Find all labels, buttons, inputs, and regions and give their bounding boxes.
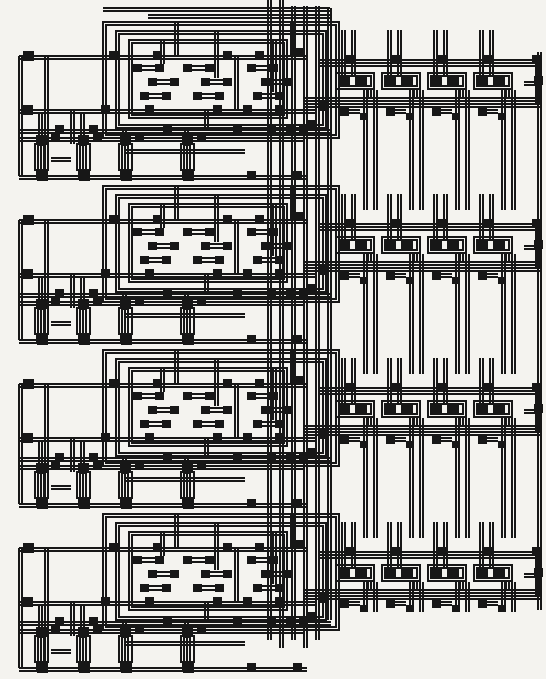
contact-pad [223,78,232,86]
contact-pad [243,105,252,114]
contact-pad [183,170,194,181]
contact-pad [223,51,232,60]
contact-pad [534,568,543,577]
contact-pad [243,269,252,278]
contact-pad [101,433,110,442]
contact-pad [215,256,224,264]
contact-pad [493,403,505,415]
contact-pad [155,392,164,400]
standard-cell [474,194,515,374]
contact-pad [135,462,144,470]
contact-pad [153,543,162,552]
contact-pad [201,570,210,578]
contact-pad [340,272,349,280]
contact-pad [386,272,395,280]
contact-pad [293,499,302,508]
contact-pad [205,556,214,564]
contact-pad [243,597,252,606]
contact-pad [36,463,47,472]
contact-pad [386,600,395,608]
contact-pad [163,617,172,626]
contact-pad [140,420,149,428]
contact-pad [275,256,284,264]
contact-pad [247,171,256,180]
contact-pad [213,105,222,114]
contact-pad [215,92,224,100]
contact-pad [135,298,144,306]
contact-pad [261,242,270,250]
contact-pad [37,170,48,181]
contact-pad [140,584,149,592]
contact-pad [478,108,487,116]
contact-pad [355,403,367,415]
contact-pad [253,92,262,100]
contact-pad [183,392,192,400]
contact-pad [55,453,64,462]
contact-pad [432,600,441,608]
contact-pad [101,105,110,114]
standard-cell [336,194,377,374]
contact-pad [205,64,214,72]
contact-pad [269,392,278,400]
contact-pad [155,556,164,564]
contact-pad [170,570,179,578]
contact-pad [432,436,441,444]
contact-pad [89,617,98,626]
contact-pad [109,51,118,60]
contact-pad [201,406,210,414]
logic-block-2 [19,186,339,345]
contact-pad [534,76,543,85]
contact-pad [89,125,98,134]
contact-pad [247,228,256,236]
contact-pad [79,334,90,345]
contact-pad [51,134,60,142]
contact-pad [223,242,232,250]
cell-row-2 [304,194,543,374]
contact-pad [247,556,256,564]
contact-pad [78,135,89,144]
contact-pad [340,108,349,116]
contact-pad [23,51,34,61]
contact-pad [493,75,505,87]
contact-pad [162,584,171,592]
contact-pad [275,420,284,428]
contact-pad [182,135,193,144]
logic-block-3 [19,350,339,509]
contact-pad [247,663,256,672]
contact-pad [338,403,350,415]
contact-pad [109,379,118,388]
contact-pad [135,626,144,634]
contact-pad [283,406,292,414]
contact-pad [23,433,33,443]
contact-pad [153,51,162,60]
contact-pad [243,433,252,442]
contact-pad [476,239,488,251]
contact-pad [255,379,264,388]
contact-pad [283,78,292,86]
contact-pad [215,584,224,592]
contact-pad [23,215,34,225]
contact-pad [299,617,308,626]
contact-pad [37,334,48,345]
contact-pad [93,626,102,634]
contact-pad [23,269,33,279]
contact-pad [247,392,256,400]
contact-pad [162,256,171,264]
standard-cell [428,358,469,538]
contact-pad [267,289,276,298]
contact-pad [78,299,89,308]
contact-pad [120,299,131,308]
contact-pad [109,543,118,552]
contact-pad [23,543,34,553]
contact-pad [145,433,154,442]
contact-pad [148,570,157,578]
contact-pad [183,64,192,72]
standard-cell [474,358,515,538]
contact-pad [308,612,317,621]
contact-pad [447,239,459,251]
contact-pad [286,126,295,135]
standard-cell [382,30,423,210]
contact-pad [197,298,206,306]
contact-pad [101,269,110,278]
standard-cell [474,30,515,210]
